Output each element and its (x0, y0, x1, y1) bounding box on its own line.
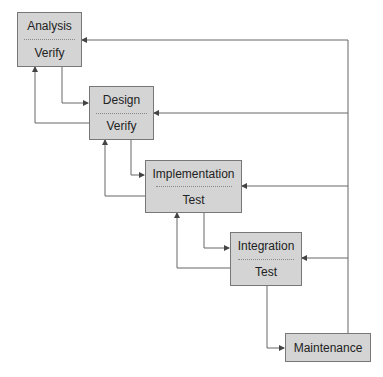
stage-check: Test (146, 187, 241, 212)
stage-title: Implementation (146, 161, 241, 186)
stage-title: Design (90, 87, 153, 113)
stage-check: Verify (90, 114, 153, 140)
stage-check: Verify (18, 40, 81, 66)
stage-title: Analysis (18, 13, 81, 39)
stage-integration: Integration Test (230, 232, 302, 286)
stage-design: Design Verify (89, 86, 154, 140)
stage-check: Test (231, 260, 301, 286)
stage-title: Integration (231, 233, 301, 259)
stage-maintenance: Maintenance (285, 333, 371, 362)
stage-analysis: Analysis Verify (17, 12, 82, 67)
stage-implementation: Implementation Test (145, 160, 242, 213)
stage-title: Maintenance (286, 334, 370, 361)
